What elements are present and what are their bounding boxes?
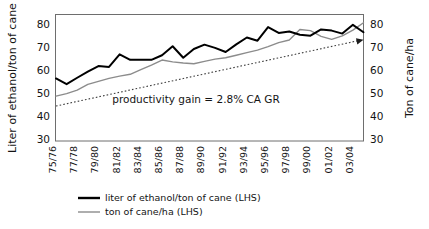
y-tick-label: 30 (37, 133, 50, 145)
x-tick-label: 79/80 (89, 146, 100, 173)
y-axis-title: Liter of ethanol/ton of cane (6, 3, 19, 153)
y2-tick-label: 50 (370, 87, 383, 99)
y-axis-tick-labels: 80 70 60 50 40 30 (37, 18, 50, 145)
x-tick-label: 85/86 (153, 146, 164, 173)
y-tick-label: 50 (37, 87, 50, 99)
x-tick-label: 77/78 (68, 146, 79, 173)
chart-figure: Liter of ethanol/ton of cane Ton of cane… (0, 0, 429, 229)
y2-tick-label: 80 (370, 18, 383, 30)
x-tick-label: 83/84 (132, 146, 143, 173)
x-tick-label: 81/82 (111, 146, 122, 173)
plot-area-frame (56, 15, 364, 142)
y2-tick-label: 60 (370, 64, 383, 76)
y-tick-label: 70 (37, 41, 50, 53)
y2-tick-label: 70 (370, 41, 383, 53)
y2-axis-title: Ton of cane/ha (403, 38, 416, 119)
x-tick-label: 89/90 (195, 146, 206, 173)
x-tick-label: 97/98 (280, 146, 291, 173)
x-tick-label: 99/00 (301, 146, 312, 173)
x-tick-label: 95/96 (259, 146, 270, 173)
legend-label-cane: ton of cane/ha (LHS) (105, 206, 203, 217)
y2-axis-tick-labels: 80 70 60 50 40 30 (370, 18, 383, 145)
x-tick-label: 87/88 (174, 146, 185, 173)
x-tick-label: 75/76 (47, 146, 58, 173)
series-line-ton-of-cane (56, 23, 364, 96)
x-tick-label: 01/02 (323, 146, 334, 173)
y-tick-label: 80 (37, 18, 50, 30)
y-tick-label: 40 (37, 110, 50, 122)
y2-tick-label: 30 (370, 133, 383, 145)
x-tick-label: 93/94 (238, 146, 249, 173)
trend-arrowhead (356, 38, 364, 44)
x-tick-label: 91/92 (217, 146, 228, 173)
productivity-gain-annotation: productivity gain = 2.8% CA GR (112, 93, 280, 105)
legend-label-ethanol: liter of ethanol/ton of cane (LHS) (105, 192, 261, 203)
x-axis-tick-labels: 75/7677/7879/8081/8283/8485/8687/8889/90… (47, 146, 355, 173)
chart-legend: liter of ethanol/ton of cane (LHS) ton o… (78, 192, 261, 217)
y2-tick-label: 40 (370, 110, 383, 122)
x-tick-label: 03/04 (344, 146, 355, 173)
y-tick-label: 60 (37, 64, 50, 76)
